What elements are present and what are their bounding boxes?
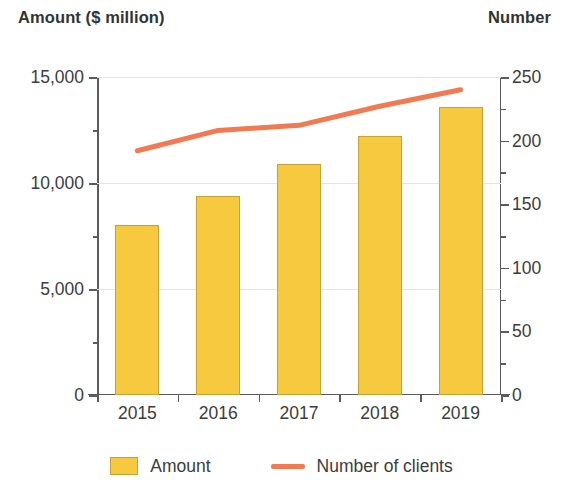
x-axis-tick — [420, 395, 422, 402]
right-axis-tick — [501, 204, 509, 206]
right-axis-tick-label: 150 — [512, 194, 541, 215]
x-axis-tick-label: 2018 — [360, 403, 399, 424]
right-axis-tick-label: 0 — [512, 385, 522, 406]
right-axis-tick — [501, 77, 509, 79]
left-axis-tick — [89, 77, 97, 79]
x-axis-tick — [501, 395, 503, 402]
x-axis-tick-label: 2017 — [280, 403, 319, 424]
plot-area — [97, 77, 501, 395]
left-axis-title: Amount ($ million) — [18, 8, 165, 27]
left-axis-tick — [89, 395, 97, 397]
bar — [115, 225, 159, 395]
left-axis-minor-tick — [93, 342, 98, 344]
left-axis-tick — [89, 289, 97, 291]
x-axis-tick — [178, 395, 180, 402]
box-swatch-icon — [110, 457, 138, 475]
right-axis-tick-labels: 050100150200250 — [512, 77, 562, 395]
x-axis-tick-label: 2016 — [199, 403, 238, 424]
x-axis-tick-labels: 20152016201720182019 — [97, 403, 501, 431]
left-axis-minor-tick — [93, 130, 98, 132]
legend-label: Amount — [150, 456, 210, 477]
right-axis-tick-label: 200 — [512, 130, 541, 151]
chart-legend: AmountNumber of clients — [0, 448, 563, 484]
gridline — [97, 77, 501, 78]
right-axis-minor-tick — [501, 363, 506, 365]
right-axis-tick — [501, 141, 509, 143]
x-axis-tick-label: 2015 — [118, 403, 157, 424]
legend-label: Number of clients — [317, 456, 453, 477]
x-axis-tick-label: 2019 — [441, 403, 480, 424]
right-axis-tick — [501, 268, 509, 270]
right-axis-minor-tick — [501, 109, 506, 111]
dual-axis-chart: Amount ($ million) Number 05,00010,00015… — [0, 0, 563, 489]
bar — [277, 164, 321, 395]
x-axis-tick — [97, 395, 99, 402]
line-swatch-icon — [271, 464, 305, 469]
left-axis-minor-tick — [93, 236, 98, 238]
x-axis-tick — [339, 395, 341, 402]
right-axis-minor-tick — [501, 300, 506, 302]
left-axis-line — [97, 77, 99, 395]
right-axis-tick-label: 250 — [512, 67, 541, 88]
right-axis-tick-label: 100 — [512, 257, 541, 278]
right-axis-tick — [501, 331, 509, 333]
left-axis-tick-label: 10,000 — [30, 173, 84, 194]
right-axis-minor-tick — [501, 236, 506, 238]
left-axis-tick-label: 15,000 — [30, 67, 84, 88]
left-axis-tick-label: 5,000 — [40, 279, 84, 300]
left-axis-tick-label: 0 — [74, 385, 84, 406]
right-axis-minor-tick — [501, 172, 506, 174]
left-axis-tick-labels: 05,00010,00015,000 — [0, 77, 84, 395]
left-axis-tick — [89, 183, 97, 185]
bar — [439, 107, 483, 395]
x-axis-tick — [259, 395, 261, 402]
right-axis-title: Number — [488, 8, 551, 27]
bar — [358, 136, 402, 395]
legend-item[interactable]: Number of clients — [271, 456, 453, 477]
right-axis-tick-label: 50 — [512, 321, 531, 342]
bar — [196, 196, 240, 395]
legend-item[interactable]: Amount — [110, 456, 210, 477]
